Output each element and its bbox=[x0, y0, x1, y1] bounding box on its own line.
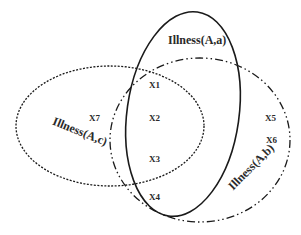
set-a-label: Illness(A,a) bbox=[168, 33, 226, 47]
element-x4: X4 bbox=[149, 192, 160, 202]
set-c-ellipse bbox=[16, 66, 204, 186]
set-c-label: Illness(A,c) bbox=[51, 114, 110, 149]
venn-diagram: Illness(A,a) Illness(A,c) Illness(A,b) X… bbox=[0, 0, 301, 235]
set-b-ellipse bbox=[110, 58, 290, 222]
element-x6: X6 bbox=[266, 135, 277, 145]
element-x1: X1 bbox=[149, 80, 160, 90]
element-x7: X7 bbox=[89, 113, 100, 123]
element-x2: X2 bbox=[149, 113, 160, 123]
element-x5: X5 bbox=[265, 113, 276, 123]
element-x3: X3 bbox=[149, 154, 160, 164]
